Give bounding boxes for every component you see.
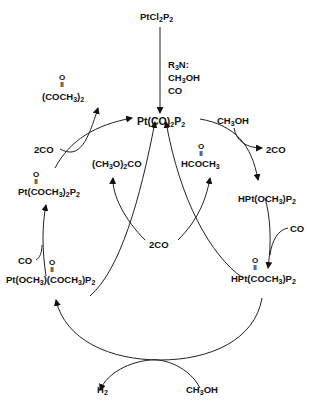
hpt-och3-label: HPt(OCH3)P2 [238,194,296,204]
oxo-mark-pt-coch3-2: O‖ [31,171,41,185]
center-complex-label: Pt(CO)2P2 [137,116,185,127]
co-right-label: CO [290,224,304,234]
oxo-mark-pt-och3-coch3: O‖ [47,259,57,273]
h2-release-arrow [100,360,200,390]
oxo-mark-formate: O‖ [196,143,206,157]
ch3oh-bottom-label: CH3OH [186,385,218,395]
methyl-formate-label: HCOCH3 [181,159,220,169]
oxalate-release-arrow [60,108,98,152]
co-insertion-arrow-right [270,228,288,255]
catalytic-cycle-diagram: PtCl2P2 R3N: CH3OH CO Pt(CO)2P2 O‖ (COCH… [0,0,311,402]
arrow-center-to-hpt-och3 [200,119,258,180]
ch3oh-top-label: CH3OH [217,116,249,126]
arrow-hpt-och3-to-hpt-coch3 [265,198,270,268]
oxo-mark-oxalate: O‖ [57,74,67,88]
precursor-label: PtCl2P2 [140,12,173,22]
pt-coch3-2-label: Pt(COCH3)2P2 [18,187,80,197]
arrow-pt-och3-coch3-to-center [90,122,155,296]
pt-och3-coch3-label: Pt(OCH3)(COCH3)P2 [6,275,95,285]
co-insertion-arrow-left [36,245,42,260]
condition-co: CO [168,86,182,96]
oxo-mark-hpt-coch3: O‖ [250,257,260,271]
bottom-cycle-arrow [56,298,262,360]
dimethyl-carbonate-label: (CH3O)2CO [92,159,142,169]
hpt-coch3-label: HPt(COCH3)P2 [231,274,296,284]
two-co-right-label: 2CO [266,145,286,155]
hydrogen-label: H2 [97,385,108,395]
co-left-label: CO [18,256,32,266]
condition-r3n: R3N: [168,60,189,70]
two-co-center-label: 2CO [149,240,169,250]
dimethyl-oxalate-label: (COCH3)2 [42,92,84,102]
condition-ch3oh: CH3OH [168,73,200,83]
two-co-release-arrow [234,128,262,148]
two-co-left-label: 2CO [34,145,54,155]
arrow-to-pt-coch3-2 [43,205,46,276]
